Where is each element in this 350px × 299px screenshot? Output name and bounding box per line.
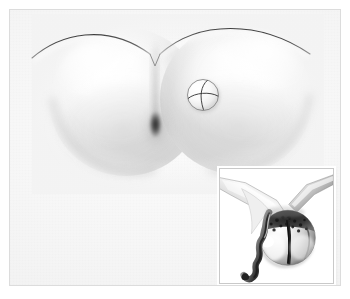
wireframe-sphere-marker	[182, 74, 224, 116]
figure-outer-frame	[9, 9, 341, 286]
inset-illustration	[220, 169, 333, 283]
inset-detail-view[interactable]	[219, 168, 334, 284]
central-orifice	[149, 111, 162, 138]
figure-root	[0, 0, 350, 299]
sphere-specular-highlight	[192, 84, 200, 90]
